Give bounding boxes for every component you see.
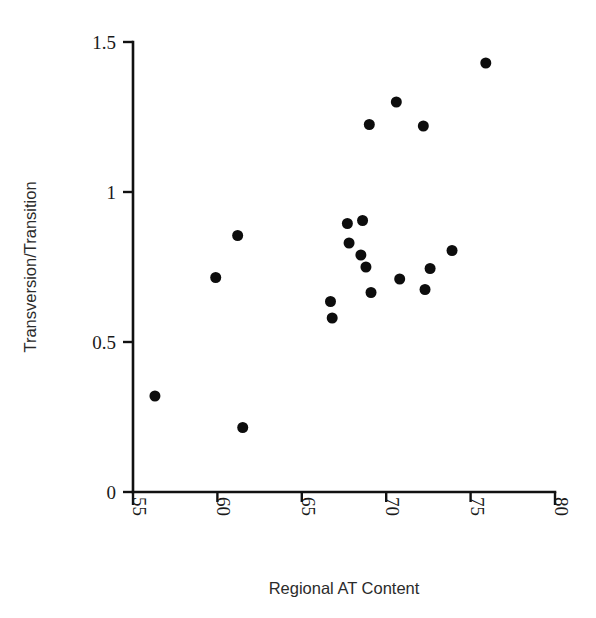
x-axis-title: Regional AT Content (269, 579, 420, 597)
x-axis-tick-label: 70 (382, 497, 403, 516)
data-point (391, 97, 402, 108)
scatter-plot-figure: 00.511.5 556065707580 Regional AT Conten… (0, 0, 596, 618)
data-point (480, 58, 491, 69)
data-point (420, 284, 431, 295)
data-point (327, 313, 338, 324)
x-axis-tick-label: 55 (129, 497, 150, 516)
plot-canvas: 00.511.5 556065707580 Regional AT Conten… (0, 0, 596, 618)
data-point (237, 422, 248, 433)
y-axis-tick-label: 0 (107, 482, 117, 503)
y-axis-tick-label: 1.5 (92, 32, 116, 53)
x-axis-tick-label: 60 (213, 497, 234, 516)
data-point (418, 121, 429, 132)
data-point (447, 245, 458, 256)
x-axis-tick-group: 556065707580 (129, 492, 572, 516)
y-axis-tick-label: 0.5 (92, 332, 116, 353)
data-point (366, 287, 377, 298)
x-axis-tick-label: 65 (298, 497, 319, 516)
data-point (394, 274, 405, 285)
data-point (355, 250, 366, 261)
data-point (325, 296, 336, 307)
data-point (360, 262, 371, 273)
data-point (342, 218, 353, 229)
y-axis-title: Transversion/Transition (21, 181, 39, 352)
x-axis-tick-label: 80 (551, 497, 572, 516)
data-point-group (149, 58, 491, 434)
data-point (364, 119, 375, 130)
data-point (357, 215, 368, 226)
data-point (149, 391, 160, 402)
y-axis-tick-group: 00.511.5 (92, 32, 133, 503)
data-point (210, 272, 221, 283)
data-point (232, 230, 243, 241)
data-point (425, 263, 436, 274)
y-axis-tick-label: 1 (107, 182, 117, 203)
x-axis-tick-label: 75 (467, 497, 488, 516)
data-point (344, 238, 355, 249)
